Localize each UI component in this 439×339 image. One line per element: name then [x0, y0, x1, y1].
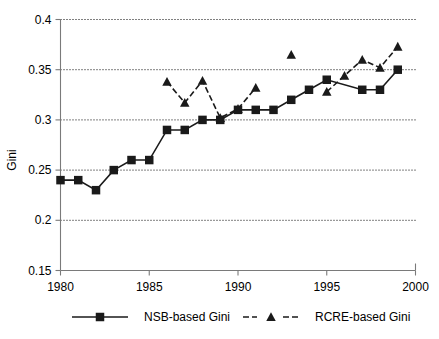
y-axis-title-group: Gini — [5, 149, 19, 170]
y-tick-label: 0.2 — [35, 213, 52, 227]
legend-marker-square — [96, 313, 105, 322]
data-point-square-nsb — [305, 86, 314, 95]
x-tick-label: 1995 — [313, 280, 340, 294]
gini-line-chart: 0.150.20.250.30.350.4 198019851990199520… — [0, 0, 439, 339]
x-tick-label: 1985 — [136, 280, 163, 294]
y-tick-label: 0.15 — [28, 264, 52, 278]
data-point-square-nsb — [56, 176, 65, 185]
chart-canvas: 0.150.20.250.30.350.4 198019851990199520… — [0, 0, 439, 339]
data-point-square-nsb — [287, 96, 296, 105]
y-tick-label: 0.35 — [28, 63, 52, 77]
data-point-square-nsb — [394, 65, 403, 74]
y-axis-title: Gini — [5, 149, 19, 170]
legend-label: NSB-based Gini — [144, 310, 230, 324]
x-tick-label: 2000 — [402, 280, 429, 294]
data-point-square-nsb — [110, 166, 119, 175]
y-tick-label: 0.25 — [28, 163, 52, 177]
data-point-square-nsb — [376, 86, 385, 95]
data-point-square-nsb — [163, 126, 172, 135]
y-tick-label: 0.3 — [35, 113, 52, 127]
data-point-square-nsb — [74, 176, 83, 185]
legend-label: RCRE-based Gini — [315, 310, 410, 324]
data-point-square-nsb — [127, 156, 136, 165]
x-tick-label: 1990 — [225, 280, 252, 294]
data-point-square-nsb — [92, 186, 101, 195]
data-point-square-nsb — [358, 86, 367, 95]
data-point-square-nsb — [252, 106, 261, 115]
data-point-square-nsb — [198, 116, 207, 125]
data-point-square-nsb — [323, 75, 332, 84]
data-point-square-nsb — [145, 156, 154, 165]
x-tick-label: 1980 — [47, 280, 74, 294]
y-tick-label: 0.4 — [35, 13, 52, 27]
data-point-square-nsb — [269, 106, 278, 115]
data-point-square-nsb — [181, 126, 190, 135]
